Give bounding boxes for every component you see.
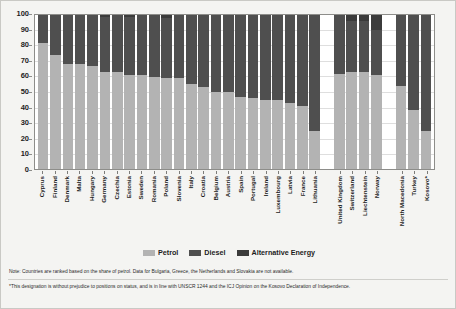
bar-stack[interactable] xyxy=(297,15,308,169)
bar-stack[interactable] xyxy=(359,15,370,169)
bar-segment-diesel xyxy=(50,15,61,55)
bar-stack[interactable] xyxy=(211,15,222,169)
x-axis-tick-label: Cyprus xyxy=(39,176,45,197)
bar-stack[interactable] xyxy=(346,15,357,169)
bar-stack[interactable] xyxy=(198,15,209,169)
bar-segment-petrol xyxy=(174,78,185,169)
bar-stack[interactable] xyxy=(235,15,246,169)
bar-stack[interactable] xyxy=(285,15,296,169)
bar-stack[interactable] xyxy=(334,15,345,169)
legend-label: Petrol xyxy=(158,249,178,256)
bar-segment-petrol xyxy=(235,97,246,169)
bar-stack[interactable] xyxy=(260,15,271,169)
bar-segment-diesel xyxy=(260,15,271,100)
bar-stack[interactable] xyxy=(186,15,197,169)
x-axis-label-slot: Switzerland xyxy=(347,171,358,219)
y-axis-tick-label: 50 xyxy=(21,88,29,96)
x-axis-label-slot: Cyprus xyxy=(37,171,48,219)
bar-segment-petrol xyxy=(149,77,160,169)
bar-segment-diesel xyxy=(223,15,234,92)
legend-label: Alternative Energy xyxy=(252,249,316,256)
bar-stack[interactable] xyxy=(63,15,74,169)
bar-stack[interactable] xyxy=(75,15,86,169)
bar-stack[interactable] xyxy=(421,15,432,169)
bar-segment-diesel xyxy=(186,15,197,84)
bar-stack[interactable] xyxy=(371,15,382,169)
x-axis-tick-mark xyxy=(216,171,217,174)
legend-swatch-icon xyxy=(189,250,201,256)
bar-stack[interactable] xyxy=(309,15,320,169)
legend-item[interactable]: Petrol xyxy=(143,249,178,256)
x-axis-tick-mark xyxy=(340,171,341,174)
bar-segment-diesel xyxy=(137,15,148,75)
y-axis-tick-label: 100 xyxy=(16,10,29,18)
bar-segment-diesel xyxy=(75,15,86,64)
bar-stack[interactable] xyxy=(223,15,234,169)
bar-segment-petrol xyxy=(309,131,320,170)
bar-stack[interactable] xyxy=(137,15,148,169)
x-axis-tick-mark xyxy=(427,171,428,174)
bar-segment-diesel xyxy=(124,17,135,76)
chart-note-ranking: Note: Countries are ranked based on the … xyxy=(9,269,447,275)
bar-stack[interactable] xyxy=(272,15,283,169)
x-axis-label-slot: North Macedonia xyxy=(397,171,408,219)
x-axis-tick-label: Poland xyxy=(163,176,169,197)
y-axis-tick-mark xyxy=(29,123,32,124)
x-axis-label-slot: Czechia xyxy=(111,171,122,219)
bar-stack[interactable] xyxy=(149,15,160,169)
x-axis-tick-mark xyxy=(253,171,254,174)
bar-segment-petrol xyxy=(186,84,197,169)
x-axis-label-slot: Hungary xyxy=(87,171,98,219)
x-axis-label-slot: Sweden xyxy=(136,171,147,219)
bar-stack[interactable] xyxy=(50,15,61,169)
bar-segment-diesel xyxy=(421,15,432,131)
x-axis-tick-label: Lithuania xyxy=(312,176,318,204)
bar-segment-petrol xyxy=(38,43,49,169)
legend-item[interactable]: Diesel xyxy=(189,249,225,256)
x-axis-tick-label: Sweden xyxy=(138,176,144,199)
bar-segment-petrol xyxy=(223,92,234,169)
x-axis-tick-mark xyxy=(278,171,279,174)
bar-segment-diesel xyxy=(346,21,357,72)
x-axis-tick-mark xyxy=(241,171,242,174)
x-axis-tick-mark xyxy=(154,171,155,174)
x-axis-tick-mark xyxy=(414,171,415,174)
x-axis-tick-label: United Kingdom xyxy=(337,176,343,224)
bar-segment-petrol xyxy=(161,78,172,169)
x-axis-label-slot: Belgium xyxy=(211,171,222,219)
bar-stack[interactable] xyxy=(100,15,111,169)
x-axis-label-slot: Ireland xyxy=(260,171,271,219)
y-axis-tick-label: 20 xyxy=(21,135,29,143)
x-axis-tick-label: North Macedonia xyxy=(399,176,405,226)
x-axis-tick-mark xyxy=(203,171,204,174)
x-axis-tick-label: France xyxy=(300,176,306,196)
x-axis-tick-label: Norway xyxy=(374,176,380,198)
y-axis-tick-mark xyxy=(29,139,32,140)
note-divider xyxy=(8,279,448,280)
x-axis-tick-mark xyxy=(352,171,353,174)
bar-stack[interactable] xyxy=(174,15,185,169)
bar-stack[interactable] xyxy=(161,15,172,169)
bar-stack[interactable] xyxy=(124,15,135,169)
x-axis-tick-mark xyxy=(79,171,80,174)
bar-segment-diesel xyxy=(149,15,160,77)
bar-segment-petrol xyxy=(248,98,259,169)
bar-stack[interactable] xyxy=(248,15,259,169)
x-axis-tick-mark xyxy=(365,171,366,174)
bar-stack[interactable] xyxy=(396,15,407,169)
x-axis-label-slot: Poland xyxy=(161,171,172,219)
bar-stack[interactable] xyxy=(408,15,419,169)
bar-stack[interactable] xyxy=(87,15,98,169)
bar-stack[interactable] xyxy=(38,15,49,169)
x-axis-tick-label: Finland xyxy=(52,176,58,198)
x-axis-tick-mark xyxy=(92,171,93,174)
bar-stack[interactable] xyxy=(112,15,123,169)
legend-item[interactable]: Alternative Energy xyxy=(237,249,316,256)
x-axis-tick-mark xyxy=(315,171,316,174)
x-axis-tick-label: Malta xyxy=(76,176,82,192)
y-axis-tick-mark xyxy=(29,108,32,109)
x-axis-label-slot: Italy xyxy=(186,171,197,219)
legend-label: Diesel xyxy=(204,249,225,256)
x-axis-tick-mark xyxy=(104,171,105,174)
bar-segment-diesel xyxy=(198,15,209,87)
